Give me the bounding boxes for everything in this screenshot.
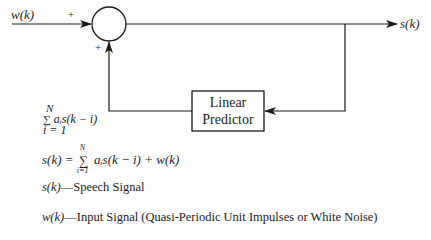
definition-symbol: s(k) <box>42 180 61 194</box>
predictor-output-label: N ∑ aᵢs(k − i) i = 1 <box>40 103 97 136</box>
sum-lower-limit: i = 1 <box>43 125 97 136</box>
definition-speech-signal: s(k)—Speech Signal <box>42 180 144 195</box>
definition-text: —Input Signal (Quasi-Periodic Unit Impul… <box>64 210 377 224</box>
feedback-arrow <box>109 42 192 111</box>
definition-text: —Speech Signal <box>61 180 145 194</box>
input-label: w(k) <box>11 7 34 23</box>
equation-upper: N <box>80 143 85 152</box>
model-equation: s(k) = N∑i=1 aᵢs(k − i) + w(k) <box>42 152 179 169</box>
box-line-1: Linear <box>210 94 247 111</box>
plus-sign-input: + <box>68 8 74 20</box>
equation-lower: i=1 <box>77 166 89 175</box>
definition-input-signal: w(k)—Input Signal (Quasi-Periodic Unit I… <box>42 210 377 225</box>
plus-sign-feedback: + <box>95 41 101 53</box>
summing-junction <box>92 7 126 41</box>
feedback-branch-arrow <box>265 24 345 111</box>
box-line-2: Predictor <box>202 111 253 128</box>
output-label: s(k) <box>400 16 420 32</box>
linear-predictor-label: Linear Predictor <box>192 91 264 131</box>
definition-symbol: w(k) <box>42 210 64 224</box>
equation-lhs: s(k) = <box>42 152 77 167</box>
equation-rhs: aᵢs(k − i) + w(k) <box>91 152 180 167</box>
